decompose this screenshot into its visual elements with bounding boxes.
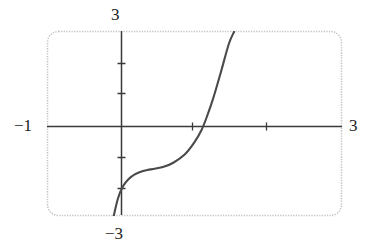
plot-frame [48, 32, 342, 216]
axis-label-bottom: −3 [105, 225, 123, 242]
plot-canvas [0, 0, 373, 245]
axis-label-right: 3 [349, 117, 358, 134]
graph-figure: 3 −3 −1 3 [0, 0, 373, 245]
axis-label-left: −1 [14, 117, 32, 134]
axis-label-top: 3 [111, 6, 120, 23]
